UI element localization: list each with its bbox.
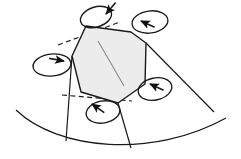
- figure-container: [0, 0, 241, 159]
- rotation-loop-right-arrow: [150, 84, 164, 90]
- rotation-loop-top: [78, 3, 116, 32]
- hexagonal-grain-group: [72, 26, 146, 103]
- rotation-loop-left-arrow: [49, 58, 64, 61]
- rotation-loop-top-right-ellipse: [131, 9, 170, 36]
- rotation-loop-bottom-arrow: [92, 104, 104, 113]
- hexagonal-grain: [72, 26, 146, 103]
- rotation-loop-left: [32, 52, 72, 78]
- rotation-loop-left-ellipse: [32, 52, 72, 78]
- rotation-loop-top-ellipse: [78, 3, 115, 32]
- rotation-loop-top-right-arrow: [141, 21, 155, 27]
- rotation-loop-top-right: [131, 9, 170, 36]
- rotation-diagram: [0, 0, 241, 159]
